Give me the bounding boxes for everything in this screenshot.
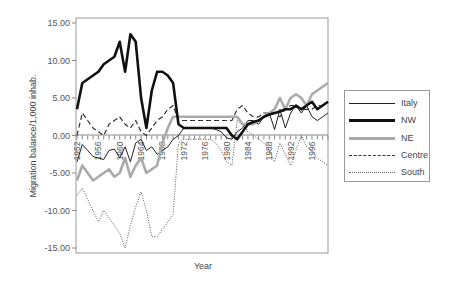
legend-label: South — [401, 167, 425, 177]
legend-swatch-centre — [349, 155, 395, 156]
series-ne — [77, 83, 328, 181]
x-tick-label: 1976 — [200, 141, 210, 160]
legend-swatch-ne — [349, 137, 395, 140]
legend-swatch-south — [349, 172, 395, 173]
legend-label: NE — [401, 133, 414, 143]
y-tick-label: -15.00 — [44, 243, 70, 253]
y-axis-title: Migration balance/1,000 inhab. — [28, 74, 38, 197]
x-tick-label: 1972 — [179, 141, 189, 160]
series-south — [77, 121, 328, 249]
legend-swatch-italy — [349, 103, 395, 104]
x-tick-label: 1988 — [264, 141, 274, 160]
x-tick-label: 1980 — [222, 141, 232, 160]
y-axis-ticks: 15.0010.005.000.00-5.00-10.00-15.00 — [44, 18, 76, 253]
legend-item-nw: NW — [349, 114, 416, 126]
plot-area: 15.0010.005.000.00-5.00-10.00-15.00 1952… — [44, 18, 328, 253]
y-tick-label: 15.00 — [47, 18, 70, 28]
legend-label: Centre — [401, 150, 428, 160]
y-tick-label: 5.00 — [52, 93, 70, 103]
series-centre — [77, 102, 328, 136]
legend: Italy NW NE Centre South — [344, 90, 430, 182]
series-nw — [77, 34, 328, 139]
legend-item-ne: NE — [349, 132, 414, 144]
y-tick-label: -5.00 — [49, 168, 70, 178]
x-axis-ticks: 1952195619601964196819721976198019841988… — [72, 136, 328, 161]
y-tick-label: 0.00 — [52, 131, 70, 141]
legend-item-italy: Italy — [349, 97, 418, 109]
y-tick-label: -10.00 — [44, 206, 70, 216]
y-tick-label: 10.00 — [47, 56, 70, 66]
legend-label: Italy — [401, 98, 418, 108]
legend-item-south: South — [349, 166, 425, 178]
x-axis-title: Year — [194, 261, 212, 271]
legend-item-centre: Centre — [349, 149, 428, 161]
x-tick-label: 1984 — [243, 141, 253, 160]
legend-label: NW — [401, 115, 416, 125]
legend-swatch-nw — [349, 119, 395, 122]
series-lines — [77, 34, 328, 248]
